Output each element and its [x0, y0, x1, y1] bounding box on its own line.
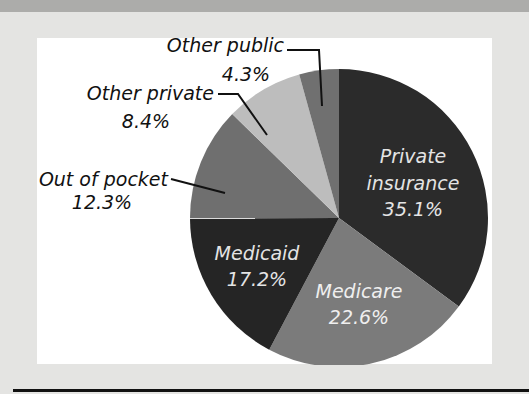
label-medicare-name: Medicare [315, 280, 402, 302]
label-medicare-pct: 22.6% [329, 306, 389, 328]
label-out-of-pocket-pct: 12.3% [72, 191, 132, 213]
label-other-private-name: Other private [87, 82, 214, 104]
label-out-of-pocket-name: Out of pocket [39, 168, 170, 190]
label-private-line2: insurance [367, 172, 460, 194]
label-other-public-pct: 4.3% [222, 63, 270, 85]
label-private-pct: 35.1% [383, 198, 443, 220]
label-other-public-name: Other public [167, 34, 285, 56]
label-private-line1: Private [380, 145, 447, 167]
label-other-private-pct: 8.4% [122, 110, 170, 132]
pie-chart: Other public 4.3% Other private 8.4% Out… [0, 0, 529, 394]
label-medicaid-pct: 17.2% [227, 268, 287, 290]
label-medicaid-name: Medicaid [215, 242, 301, 264]
